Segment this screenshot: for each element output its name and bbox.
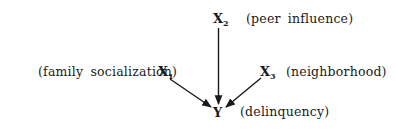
node-x2-symbol: X — [213, 11, 223, 26]
label-neighborhood: (neighborhood) — [286, 66, 387, 79]
label-delinquency: (delinquency) — [240, 106, 329, 119]
node-x3: X3 — [260, 65, 276, 80]
node-x2: X2 — [213, 12, 229, 27]
label-family-socialization: (family socialization) — [38, 66, 177, 79]
node-x3-symbol: X — [260, 64, 270, 79]
node-x1-symbol: X — [158, 64, 168, 79]
label-peer-influence: (peer influence) — [246, 13, 353, 26]
node-x2-subscript: 2 — [223, 18, 229, 28]
arrow-x1-to-y — [170, 79, 211, 107]
node-x3-subscript: 3 — [270, 71, 276, 81]
path-diagram: X2 (peer influence) (family socializatio… — [0, 0, 395, 129]
node-x1-subscript: 1 — [168, 71, 174, 81]
arrow-x3-to-y — [226, 78, 261, 107]
node-y: Y — [213, 106, 222, 119]
node-y-symbol: Y — [213, 105, 222, 120]
node-x1: X1 — [158, 65, 174, 80]
